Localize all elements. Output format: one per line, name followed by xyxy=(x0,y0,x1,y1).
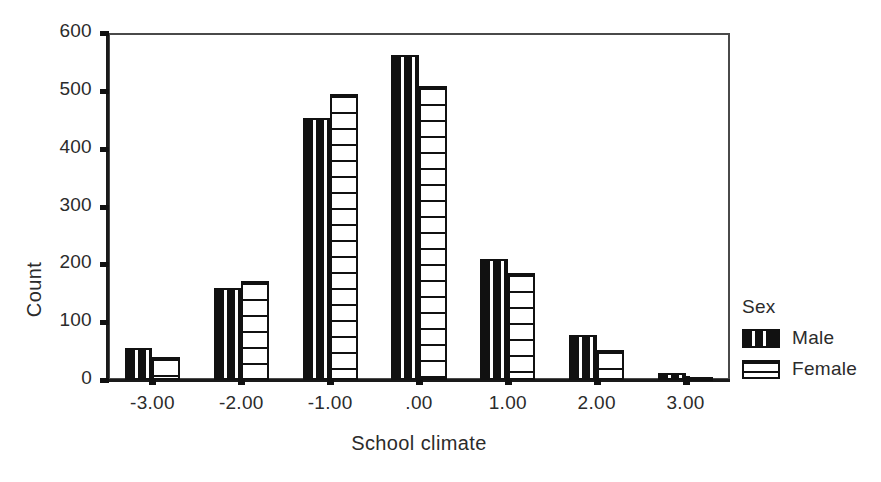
legend-entry-female: Female xyxy=(742,358,877,380)
bar-male-2.00 xyxy=(569,335,597,380)
bar-female-.00 xyxy=(419,86,447,380)
bar-male--1.00 xyxy=(303,118,331,380)
legend-entry-male: Male xyxy=(742,327,877,349)
bar-chart-figure: 0100200300400500600 -3.00-2.00-1.00.001.… xyxy=(0,0,881,482)
bar-female-1.00 xyxy=(508,273,536,380)
y-axis-title: Count xyxy=(23,230,46,350)
x-axis-title: School climate xyxy=(108,432,730,455)
bar-male-.00 xyxy=(391,55,419,380)
bar-male-3.00 xyxy=(658,373,686,380)
bar-female--2.00 xyxy=(241,281,269,380)
bar-male--3.00 xyxy=(125,348,153,380)
bar-female-2.00 xyxy=(597,350,625,380)
legend-title: Sex xyxy=(742,296,877,318)
legend-label-male: Male xyxy=(792,327,834,349)
bar-male-1.00 xyxy=(480,259,508,380)
legend-label-female: Female xyxy=(792,358,857,380)
bar-female--3.00 xyxy=(152,357,180,380)
legend-swatch-female-icon xyxy=(742,360,780,379)
bar-female--1.00 xyxy=(330,94,358,380)
bars-layer xyxy=(0,0,881,482)
bar-female-3.00 xyxy=(686,377,714,381)
legend: Sex Male Female xyxy=(742,296,877,389)
bar-male--2.00 xyxy=(214,288,242,380)
legend-swatch-male-icon xyxy=(742,329,780,348)
